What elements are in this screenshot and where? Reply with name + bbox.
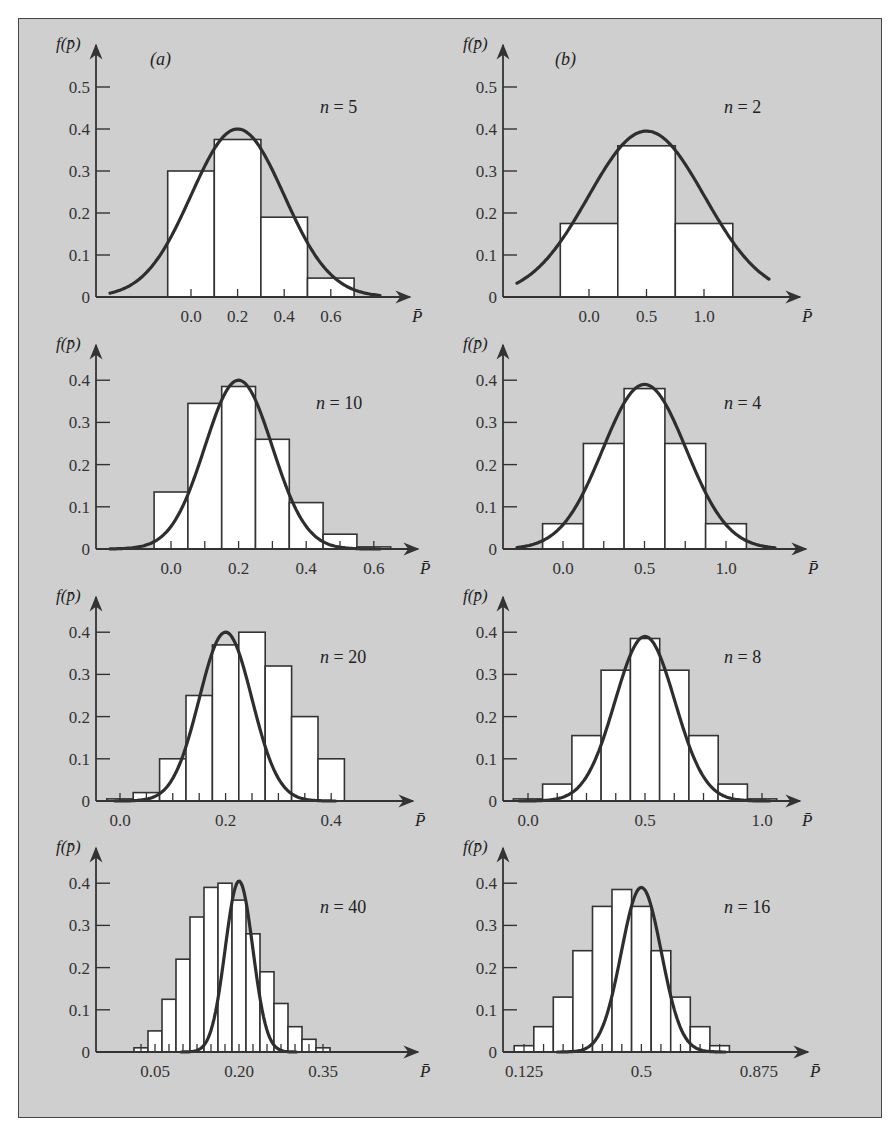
x-tick-label: 0.0 [109,811,130,830]
histogram-bar [573,951,593,1052]
histogram-bar [222,387,256,550]
histogram-bar [256,439,290,549]
x-tick-label: 1.0 [751,811,772,830]
x-tick-label: 0.2 [215,811,236,830]
x-tick-label: 0.4 [296,559,318,578]
y-tick-label: 0 [82,288,91,307]
y-tick-label: 0.1 [69,1001,90,1020]
panel-letter-a: (a) [150,49,171,70]
x-tick-label: 1.0 [715,559,736,578]
histogram-bar [190,917,204,1052]
x-tick-label: 0.4 [321,811,343,830]
histogram-bar [560,224,618,298]
y-tick-label: 0.4 [69,120,91,139]
y-tick-label: 0.4 [476,371,498,390]
y-tick-label: 0.4 [476,874,498,893]
y-tick-label: 0.3 [69,665,90,684]
x-tick-label: 0.0 [180,307,201,326]
y-tick-label: 0.5 [69,78,90,97]
panel-n-16: 00.10.20.30.40.1250.50.875f(p̄)P̄n = 16 [463,837,820,1081]
y-tick-label: 0.4 [476,623,498,642]
x-tick-label: 0.20 [224,1062,254,1081]
y-tick-label: 0.3 [69,162,90,181]
y-tick-label: 0.2 [69,708,90,727]
x-tick-label: 0.5 [634,811,655,830]
histogram-bar [292,717,318,801]
y-axis-title: f(p̄) [56,334,81,353]
histogram-bar [651,951,671,1052]
x-tick-label: 0.125 [505,1062,543,1081]
panel-n-10: 00.10.20.30.40.00.20.40.6f(p̄)P̄n = 10 [56,334,430,578]
histogram-bar [154,492,188,549]
x-tick-label: 0.6 [320,307,341,326]
y-axis-title: f(p̄) [56,837,81,856]
histogram-bar [232,900,246,1052]
x-tick-label: 0.0 [160,559,181,578]
histogram-bar [630,639,659,802]
y-tick-label: 0 [82,1043,91,1062]
histogram-bar [188,403,222,549]
y-tick-label: 0.3 [69,916,90,935]
x-tick-label: 0.2 [227,307,248,326]
x-tick-label: 0.875 [740,1062,778,1081]
y-tick-label: 0.3 [476,162,497,181]
y-tick-label: 0 [489,540,498,559]
x-axis-title: P̄ [414,811,425,830]
x-tick-label: 0.4 [274,307,296,326]
y-axis-title: f(p̄) [56,34,81,53]
x-tick-label: 0.5 [631,1062,652,1081]
y-tick-label: 0.1 [69,750,90,769]
y-tick-label: 0.1 [476,750,497,769]
histogram-bar [168,171,215,297]
sample-size-label: n = 20 [320,647,366,667]
y-tick-label: 0 [489,288,498,307]
x-tick-label: 0.05 [140,1062,170,1081]
y-tick-label: 0.3 [476,413,497,432]
panel-n-8: 00.10.20.30.40.00.51.0f(p̄)P̄n = 8 [463,586,812,830]
x-axis-title: P̄ [411,307,422,326]
y-tick-label: 0.1 [69,246,90,265]
x-axis-title: P̄ [419,1062,430,1081]
y-tick-label: 0.3 [476,916,497,935]
x-tick-label: 0.2 [228,559,249,578]
y-axis-title: f(p̄) [463,837,488,856]
y-tick-label: 0.2 [476,204,497,223]
x-tick-label: 0.35 [308,1062,338,1081]
sample-size-label: n = 10 [316,393,362,413]
histogram-bar [665,444,706,550]
histogram-bar [239,632,265,801]
histogram-bar [214,140,261,298]
y-tick-label: 0.2 [476,959,497,978]
y-axis-title: f(p̄) [463,586,488,605]
x-axis-title: P̄ [809,1062,820,1081]
panel-n-20: 00.10.20.30.40.00.20.4f(p̄)P̄n = 20 [56,586,425,830]
y-axis-title: f(p̄) [463,334,488,353]
panel-n-4: 00.10.20.30.40.00.51.0f(p̄)P̄n = 4 [463,334,818,578]
x-tick-label: 1.0 [693,307,714,326]
x-tick-label: 0.0 [517,811,538,830]
histogram-bar [583,444,624,550]
y-tick-label: 0.2 [69,959,90,978]
y-tick-label: 0.4 [476,120,498,139]
sample-size-label: n = 4 [724,393,761,413]
y-tick-label: 0.4 [69,371,91,390]
histogram-bar [624,389,665,549]
x-tick-label: 0.0 [552,559,573,578]
histogram-bar [176,959,190,1052]
y-tick-label: 0.1 [476,246,497,265]
x-axis-title: P̄ [419,559,430,578]
y-tick-label: 0.2 [69,204,90,223]
histogram-bar [186,696,212,802]
x-tick-label: 0.6 [363,559,384,578]
y-tick-label: 0 [82,792,91,811]
sample-size-label: n = 2 [724,97,761,117]
y-tick-label: 0 [489,1043,498,1062]
histogram-bar [618,146,676,297]
x-tick-label: 0.5 [636,307,657,326]
x-tick-label: 0.0 [578,307,599,326]
histogram-bar [632,906,652,1052]
y-tick-label: 0.4 [69,874,91,893]
histogram-bar [553,997,573,1052]
x-tick-label: 0.5 [634,559,655,578]
panel-n-2: 00.10.20.30.40.50.00.51.0f(p̄)P̄n = 2(b) [463,34,812,326]
